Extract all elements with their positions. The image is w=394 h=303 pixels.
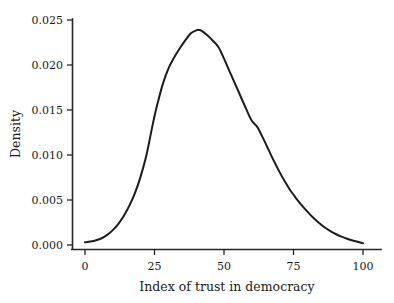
x-tick-label: 0 [82,260,89,273]
x-tick-label: 25 [148,260,162,273]
y-axis-title: Density [8,109,23,158]
x-tick-label: 100 [353,260,374,273]
density-curve [85,30,363,243]
y-tick-labels: 0.025 0.020 0.015 0.010 0.005 0.000 [32,14,64,252]
x-tick-label: 75 [287,260,301,273]
x-tick-labels: 0 25 50 75 100 [82,260,374,273]
x-tickmarks [85,250,363,256]
x-axis-title: Index of trust in democracy [139,279,315,294]
y-tick-label: 0.025 [32,14,64,27]
x-tick-label: 50 [217,260,231,273]
y-tickmarks [67,20,73,245]
y-tick-label: 0.005 [32,194,64,207]
y-tick-label: 0.010 [32,149,64,162]
y-tick-label: 0.000 [32,239,64,252]
density-plot-figure: 0.025 0.020 0.015 0.010 0.005 0.000 0 25… [0,0,394,303]
chart-canvas: 0.025 0.020 0.015 0.010 0.005 0.000 0 25… [0,0,394,303]
y-tick-label: 0.015 [32,104,64,117]
y-tick-label: 0.020 [32,59,64,72]
